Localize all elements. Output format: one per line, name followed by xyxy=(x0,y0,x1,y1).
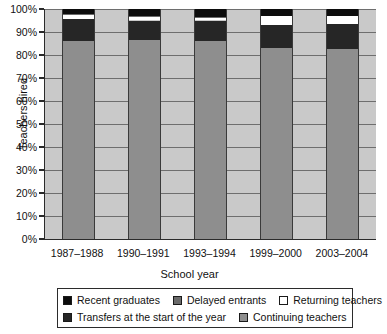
bar-segment xyxy=(129,16,160,17)
bar-segment xyxy=(63,19,94,41)
y-axis-tick xyxy=(39,238,44,239)
bar-segment xyxy=(327,9,358,16)
legend-item: Transfers at the start of the year xyxy=(63,312,226,323)
y-axis-label: 40% xyxy=(0,142,37,152)
bar-stack xyxy=(62,9,95,239)
y-axis-label: 30% xyxy=(0,165,37,175)
bar-segment xyxy=(261,48,292,239)
legend-label: Delayed entrants xyxy=(187,295,266,306)
bar-segment xyxy=(63,41,94,239)
y-axis-label: 20% xyxy=(0,188,37,198)
bar-segment xyxy=(327,49,358,239)
bar-segment xyxy=(63,9,94,14)
y-axis-tick xyxy=(39,215,44,216)
bar-stack xyxy=(260,9,293,239)
y-axis-label: 70% xyxy=(0,73,37,83)
y-axis-label: 0% xyxy=(0,234,37,244)
y-axis-tick xyxy=(39,192,44,193)
bar-segment xyxy=(129,17,160,20)
legend-item: Returning teachers xyxy=(279,295,382,306)
legend-label: Returning teachers xyxy=(293,295,382,306)
y-axis-label: 100% xyxy=(0,4,37,14)
plot-area xyxy=(44,9,376,239)
bar-stack xyxy=(194,9,227,239)
x-axis-line xyxy=(44,239,376,240)
legend-label: Recent graduates xyxy=(77,295,160,306)
bar-segment xyxy=(327,24,358,49)
y-axis-tick xyxy=(39,100,44,101)
legend-item: Delayed entrants xyxy=(173,295,266,306)
bar-segment xyxy=(129,21,160,41)
legend-item: Continuing teachers xyxy=(239,312,346,323)
legend-swatch-icon xyxy=(173,296,182,305)
bar-segment xyxy=(129,40,160,239)
legend-item: Recent graduates xyxy=(63,295,160,306)
y-axis-label: 50% xyxy=(0,119,37,129)
bar-segment xyxy=(63,14,94,15)
y-axis-tick xyxy=(39,169,44,170)
bar-segment xyxy=(195,21,226,42)
legend-swatch-icon xyxy=(63,296,72,305)
legend-row-2: Transfers at the start of the yearContin… xyxy=(63,309,347,326)
legend-swatch-icon xyxy=(239,313,248,322)
y-axis-tick xyxy=(39,146,44,147)
bar-segment xyxy=(63,15,94,20)
y-axis-tick xyxy=(39,31,44,32)
bar-segment xyxy=(195,18,226,20)
x-axis-title: School year xyxy=(0,268,379,280)
y-axis-tick xyxy=(39,8,44,9)
bar-segment xyxy=(327,16,358,24)
bar-stack xyxy=(326,9,359,239)
bar-segment xyxy=(129,9,160,16)
bar-segment xyxy=(261,9,292,16)
y-axis-label: 80% xyxy=(0,50,37,60)
bar-segment xyxy=(195,17,226,18)
y-axis-tick xyxy=(39,123,44,124)
legend-row-1: Recent graduatesDelayed entrantsReturnin… xyxy=(63,292,347,309)
chart-legend: Recent graduatesDelayed entrantsReturnin… xyxy=(57,288,353,328)
bar-segment xyxy=(261,25,292,48)
bar-segment xyxy=(195,9,226,17)
bar-stack xyxy=(128,9,161,239)
bar-segment xyxy=(195,41,226,239)
legend-swatch-icon xyxy=(279,296,288,305)
y-axis-label: 10% xyxy=(0,211,37,221)
x-axis-label: 2003–2004 xyxy=(296,247,387,259)
y-axis-label: 60% xyxy=(0,96,37,106)
y-axis-tick xyxy=(39,77,44,78)
y-axis-tick xyxy=(39,54,44,55)
legend-label: Continuing teachers xyxy=(253,312,346,323)
legend-swatch-icon xyxy=(63,313,72,322)
bar-segment xyxy=(261,16,292,25)
legend-label: Transfers at the start of the year xyxy=(77,312,226,323)
y-axis-label: 90% xyxy=(0,27,37,37)
